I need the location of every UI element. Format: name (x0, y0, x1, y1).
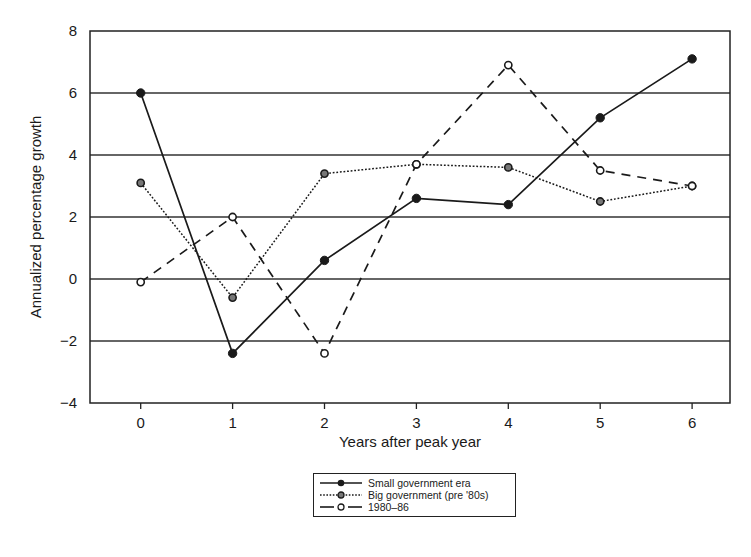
legend-item-small-government: Small government era (318, 477, 515, 489)
x-tick-label: 2 (320, 414, 328, 431)
x-tick-label: 5 (596, 414, 604, 431)
data-point-marker (137, 89, 145, 97)
data-point-marker (596, 114, 604, 122)
data-point-marker (412, 194, 420, 202)
data-point-marker (413, 161, 420, 168)
data-point-marker (505, 62, 512, 69)
y-tick-label: −4 (60, 394, 77, 411)
x-tick-label: 0 (137, 414, 145, 431)
x-tick-label: 6 (688, 414, 696, 431)
x-axis-title: Years after peak year (339, 433, 481, 450)
legend-label: 1980–86 (368, 501, 409, 513)
legend-label: Big government (pre '80s) (368, 489, 488, 501)
data-point-marker (321, 350, 328, 357)
x-tick-label: 4 (504, 414, 512, 431)
data-point-marker (597, 198, 604, 205)
dashed-line-open-circle-icon (318, 502, 364, 512)
data-point-marker (688, 55, 696, 63)
series-line-0 (141, 59, 692, 354)
data-point-marker (228, 349, 236, 357)
legend-label: Small government era (368, 477, 471, 489)
solid-line-filled-circle-icon (318, 478, 364, 488)
gridlines (90, 93, 730, 341)
series-group (137, 55, 697, 358)
data-point-marker (320, 256, 328, 264)
data-point-marker (505, 164, 512, 171)
x-axis: 0123456 (137, 403, 697, 431)
y-axis: −4−202468 (60, 22, 77, 411)
x-tick-label: 1 (228, 414, 236, 431)
y-tick-label: −2 (60, 332, 77, 349)
y-tick-label: 0 (69, 270, 77, 287)
y-tick-label: 2 (69, 208, 77, 225)
data-point-marker (689, 182, 696, 189)
data-point-marker (137, 179, 144, 186)
data-point-marker (597, 167, 604, 174)
legend: Small government era Big government (pre… (313, 473, 516, 517)
data-point-marker (137, 279, 144, 286)
dotted-line-half-circle-icon (318, 490, 364, 500)
x-tick-label: 3 (412, 414, 420, 431)
y-tick-label: 8 (69, 22, 77, 39)
data-point-marker (504, 200, 512, 208)
series-line-2 (141, 65, 692, 353)
data-point-marker (229, 294, 236, 301)
y-tick-label: 4 (69, 146, 77, 163)
series-line-1 (141, 164, 692, 297)
y-tick-label: 6 (69, 84, 77, 101)
legend-item-big-government: Big government (pre '80s) (318, 489, 515, 501)
legend-item-1980-86: 1980–86 (318, 501, 515, 513)
y-axis-title: Annualized percentage growth (27, 116, 44, 319)
data-point-marker (321, 170, 328, 177)
data-point-marker (229, 213, 236, 220)
